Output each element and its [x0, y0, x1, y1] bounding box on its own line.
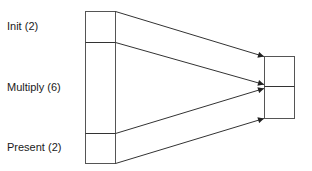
right-block-outline — [265, 57, 295, 119]
arrow-init-top — [116, 12, 265, 57]
arrow-present-top — [116, 89, 265, 134]
arrows — [116, 12, 265, 164]
arrow-present-bottom — [116, 119, 265, 164]
arrow-init-bottom — [116, 43, 265, 85]
diagram-canvas — [0, 0, 312, 171]
left-block-outline — [86, 12, 116, 164]
left-block — [86, 12, 116, 164]
right-block — [265, 57, 295, 119]
